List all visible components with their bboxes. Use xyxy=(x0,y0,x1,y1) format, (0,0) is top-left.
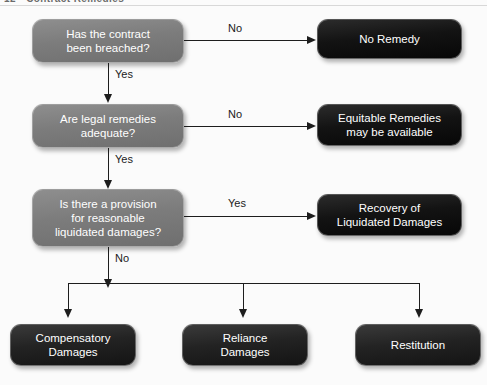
flowchart-page: 12 • Contract Remedies Has the contract … xyxy=(0,0,487,385)
node-equitable-remedies[interactable]: Equitable Remedies may be available xyxy=(317,104,462,146)
running-header: 12 • Contract Remedies xyxy=(4,0,304,5)
edge-q3-to-distribution xyxy=(108,247,109,283)
node-are-legal-remedies-adequate[interactable]: Are legal remedies adequate? xyxy=(32,104,184,148)
edge-q2-to-q3 xyxy=(108,148,109,182)
node-has-contract-been-breached[interactable]: Has the contract been breached? xyxy=(32,19,184,63)
edge-arrowhead xyxy=(307,122,316,130)
node-label: Recovery of Liquidated Damages xyxy=(324,201,455,229)
edge-arrowhead xyxy=(239,309,247,318)
edge-arrowhead xyxy=(104,180,112,189)
edge-q1-to-q2 xyxy=(108,63,109,96)
edge-label-row1-yes: Yes xyxy=(115,68,133,80)
node-label: Is there a provision for reasonable liqu… xyxy=(39,197,177,239)
edge-arrowhead xyxy=(307,212,316,220)
edge-arrowhead xyxy=(307,36,316,44)
edge-branch-reliance xyxy=(243,283,244,312)
node-label: Reliance Damages xyxy=(189,331,301,359)
node-label: Compensatory Damages xyxy=(17,331,129,359)
edge-branch-restitution xyxy=(419,283,420,312)
edge-arrowhead xyxy=(64,309,72,318)
node-label: Are legal remedies adequate? xyxy=(39,112,177,140)
edge-q3-to-recovery xyxy=(184,216,308,217)
node-label: No Remedy xyxy=(324,32,455,46)
edge-branch-compensatory xyxy=(68,283,69,312)
node-label: Restitution xyxy=(362,338,474,352)
edge-q1-to-no-remedy xyxy=(184,40,308,41)
node-label: Equitable Remedies may be available xyxy=(324,111,455,139)
distribution-bar xyxy=(68,283,420,284)
edge-label-row2-no: No xyxy=(228,108,242,120)
node-restitution[interactable]: Restitution xyxy=(355,324,481,366)
edge-arrowhead xyxy=(415,309,423,318)
edge-label-row3-yes: Yes xyxy=(228,197,246,209)
node-reliance-damages[interactable]: Reliance Damages xyxy=(182,324,308,366)
edge-label-row2-yes: Yes xyxy=(115,153,133,165)
node-no-remedy[interactable]: No Remedy xyxy=(317,19,462,59)
node-label: Has the contract been breached? xyxy=(39,27,177,55)
edge-q2-to-equitable-remedies xyxy=(184,126,308,127)
edge-label-row1-no: No xyxy=(228,22,242,34)
node-compensatory-damages[interactable]: Compensatory Damages xyxy=(10,324,136,366)
edge-label-row3-no: No xyxy=(115,252,129,264)
node-recovery-of-liquidated-damages[interactable]: Recovery of Liquidated Damages xyxy=(317,194,462,236)
header-rule xyxy=(0,5,487,6)
edge-arrowhead xyxy=(104,94,112,103)
node-liquidated-damages-provision[interactable]: Is there a provision for reasonable liqu… xyxy=(32,189,184,247)
